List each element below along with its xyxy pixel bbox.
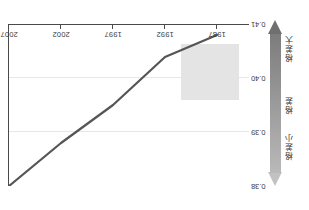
- y-label-0-39: 0.39: [251, 128, 266, 137]
- arrow-down-icon: [269, 20, 283, 34]
- plot-area: 1987 1992 1997 2002 2007 (年) 0.38 0.39 0…: [8, 24, 249, 186]
- series-polyline: [9, 35, 217, 186]
- legend-label-disparity: 格差: [282, 96, 295, 114]
- data-series-line: [8, 24, 249, 186]
- legend-label-small-disparity: 格差小: [282, 133, 295, 160]
- x-label-1992: 1992: [156, 30, 174, 39]
- legend-label-large-disparity: 格差大: [282, 35, 295, 62]
- arrow-up-icon: [269, 172, 283, 186]
- x-label-1997: 1997: [104, 30, 122, 39]
- x-label-2002: 2002: [52, 30, 70, 39]
- chart-figure: 格差小 格差 格差大 1987 1992 1997 2002 2007 (年) …: [0, 0, 309, 210]
- disparity-scale-legend: 格差小 格差 格差大: [255, 20, 295, 186]
- y-label-0-41: 0.41: [251, 20, 266, 29]
- gradient-bar: [270, 33, 281, 173]
- x-label-2007: 2007: [0, 30, 18, 39]
- y-label-0-40: 0.40: [251, 74, 266, 83]
- y-label-0-38: 0.38: [251, 182, 266, 191]
- x-label-1987: 1987: [208, 30, 226, 39]
